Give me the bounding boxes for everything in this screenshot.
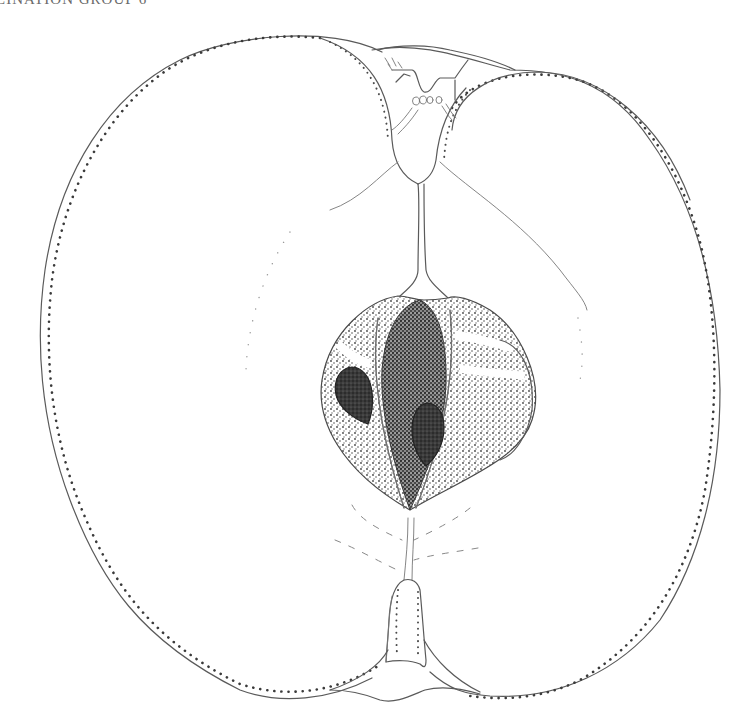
stalk-cavity-left-edge — [320, 38, 418, 184]
apple-section-illustration — [0, 0, 750, 724]
lower-vascular-traces — [335, 505, 478, 580]
stalk-cavity-right-dots — [444, 90, 470, 160]
core-tube — [398, 184, 448, 298]
stalk-cavity-right-edge — [418, 88, 466, 184]
calyx-eye — [330, 579, 480, 701]
stalk-base — [378, 46, 515, 134]
stalk-cavity-left-dots — [330, 42, 388, 140]
